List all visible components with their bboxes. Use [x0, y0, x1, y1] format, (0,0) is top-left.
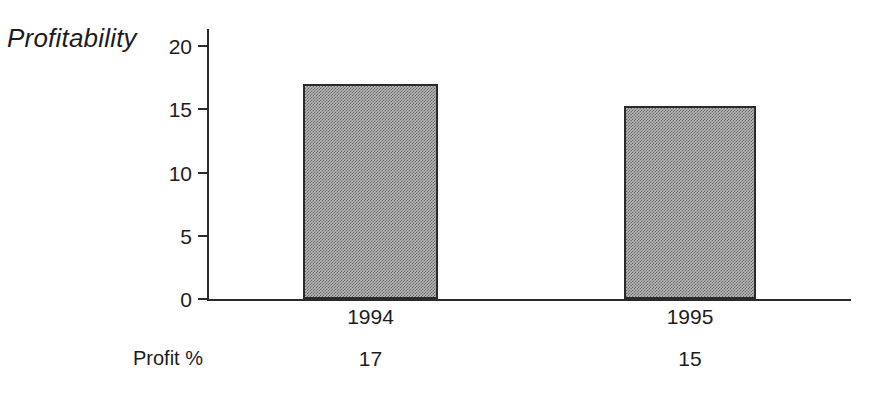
y-tick-mark-20 [198, 45, 208, 47]
y-tick-label-0: 0 [72, 289, 192, 310]
y-tick-mark-15 [198, 108, 208, 110]
x-axis-label-1995: 1995 [624, 306, 756, 327]
y-tick-label-10: 10 [72, 163, 192, 184]
data-row-label: Profit % [133, 348, 203, 368]
x-axis-label-1994: 1994 [303, 306, 438, 327]
y-tick-label-5: 5 [72, 226, 192, 247]
x-axis-line [207, 299, 851, 301]
y-tick-label-20: 20 [72, 36, 192, 57]
y-tick-mark-0 [198, 298, 208, 300]
y-tick-label-15: 15 [72, 99, 192, 120]
data-value-1994: 17 [303, 348, 438, 369]
bar-1995 [624, 106, 756, 299]
data-table-row: Profit % 17 15 [0, 348, 886, 378]
data-value-1995: 15 [624, 348, 756, 369]
y-tick-mark-10 [198, 172, 208, 174]
bar-1994 [303, 84, 438, 299]
y-axis-line [207, 29, 209, 301]
plot-area: 20 15 10 5 0 1994 1995 [0, 0, 886, 340]
y-tick-mark-5 [198, 235, 208, 237]
profitability-bar-chart: Profitability 20 15 10 5 0 1994 1995 Pro… [0, 0, 886, 398]
